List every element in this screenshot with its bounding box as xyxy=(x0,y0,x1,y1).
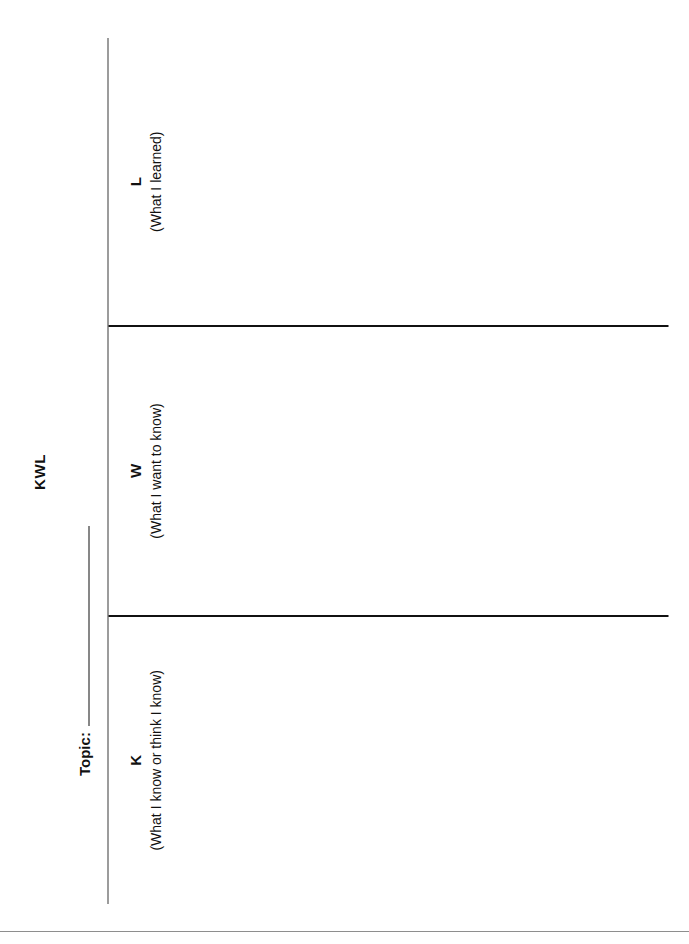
kwl-worksheet: KWL Topic: K (What I know or think I kno… xyxy=(0,0,689,944)
kwl-column-l: L (What I learned) xyxy=(108,38,668,327)
scan-edge-line xyxy=(0,931,689,932)
column-letter-l: L xyxy=(126,38,145,325)
topic-field-row: Topic: xyxy=(76,526,91,776)
worksheet-content: KWL Topic: K (What I know or think I kno… xyxy=(0,0,689,944)
column-writing-area-k[interactable] xyxy=(164,617,668,904)
column-header-w: W (What I want to know) xyxy=(108,327,164,614)
page-title: KWL xyxy=(30,0,47,944)
topic-input-line[interactable] xyxy=(88,526,89,726)
kwl-column-w: W (What I want to know) xyxy=(108,327,668,616)
column-letter-k: K xyxy=(126,617,145,904)
column-letter-w: W xyxy=(126,327,145,614)
kwl-table: K (What I know or think I know) W (What … xyxy=(107,38,668,904)
column-header-l: L (What I learned) xyxy=(108,38,164,325)
kwl-column-k: K (What I know or think I know) xyxy=(108,617,668,904)
column-header-k: K (What I know or think I know) xyxy=(108,617,164,904)
column-writing-area-w[interactable] xyxy=(164,327,668,614)
column-subtitle-w: (What I want to know) xyxy=(146,327,164,614)
column-subtitle-k: (What I know or think I know) xyxy=(146,617,164,904)
scanned-page: KWL Topic: K (What I know or think I kno… xyxy=(0,0,689,944)
topic-label: Topic: xyxy=(76,732,91,776)
column-subtitle-l: (What I learned) xyxy=(146,38,164,325)
column-writing-area-l[interactable] xyxy=(164,38,668,325)
